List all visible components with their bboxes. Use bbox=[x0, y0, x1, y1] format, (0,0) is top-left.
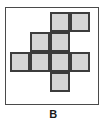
net-cell bbox=[50, 32, 70, 52]
net-cell bbox=[50, 12, 70, 32]
net-cell bbox=[50, 72, 70, 92]
figure-container: B bbox=[0, 0, 107, 128]
figure-label: B bbox=[0, 107, 107, 121]
net-cell bbox=[70, 52, 90, 72]
net-grid bbox=[6, 8, 98, 104]
net-cell bbox=[70, 12, 90, 32]
net-cell bbox=[10, 52, 30, 72]
net-cell bbox=[30, 52, 50, 72]
net-cell bbox=[30, 32, 50, 52]
net-frame bbox=[5, 7, 99, 105]
net-cell bbox=[50, 52, 70, 72]
